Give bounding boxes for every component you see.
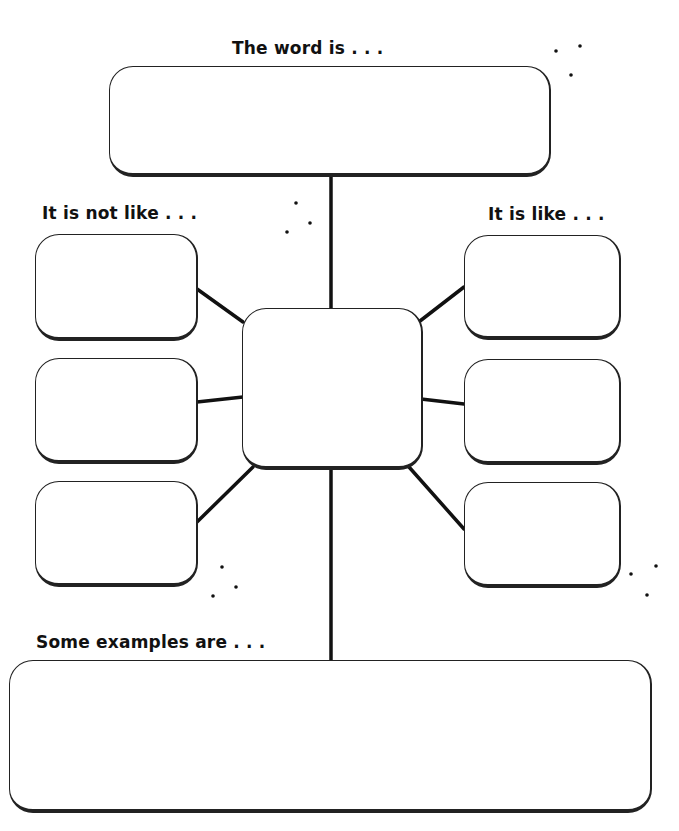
connector-like-1: [420, 287, 464, 321]
word-box[interactable]: [109, 66, 551, 177]
like-box-3[interactable]: [464, 482, 621, 588]
center-box[interactable]: [242, 308, 423, 470]
connector-like-3: [409, 467, 464, 529]
examples-label: Some examples are . . .: [36, 632, 265, 652]
not-like-box-2[interactable]: [35, 358, 198, 464]
like-label: It is like . . .: [488, 204, 605, 224]
connector-like-2: [421, 399, 464, 404]
word-label: The word is . . .: [232, 38, 383, 58]
like-box-2[interactable]: [464, 359, 621, 465]
connector-not-like-2: [197, 397, 243, 402]
like-box-1[interactable]: [464, 235, 621, 340]
examples-box[interactable]: [9, 660, 652, 813]
connector-not-like-1: [197, 289, 243, 322]
connector-not-like-3: [197, 467, 253, 522]
not-like-box-1[interactable]: [35, 234, 198, 341]
not-like-label: It is not like . . .: [42, 203, 197, 223]
not-like-box-3[interactable]: [35, 481, 198, 587]
